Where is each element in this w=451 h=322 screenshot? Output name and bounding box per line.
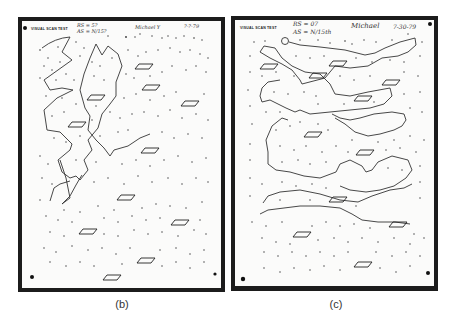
panel-c-caption: (c): [316, 298, 356, 310]
panel-b-scattered-marks: [39, 33, 209, 268]
panel-b-caption: (b): [102, 298, 142, 310]
panel-b-scan-path: [42, 37, 150, 204]
punch-holes: [23, 22, 432, 281]
panel-c-scan-path: [260, 38, 416, 225]
scan-drawing-layer: [0, 0, 451, 322]
parallelogram-targets: [68, 61, 407, 280]
